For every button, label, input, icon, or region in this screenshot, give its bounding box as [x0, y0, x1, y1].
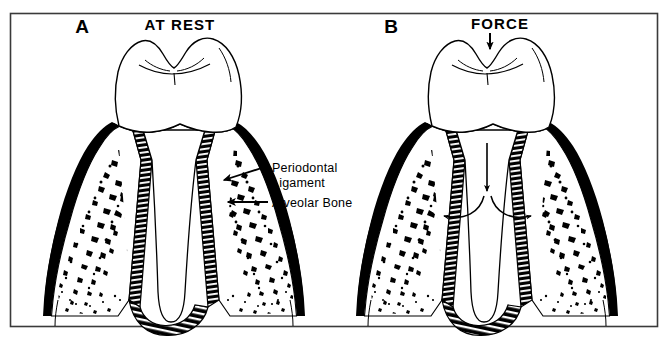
dental-diagram-svg: A AT REST B FORCE Periodontal Ligament A…: [0, 0, 668, 339]
label-periodontal-ligament-line1: Periodontal: [272, 161, 337, 175]
panel-b-title: FORCE: [471, 15, 529, 32]
figure-root: A AT REST B FORCE Periodontal Ligament A…: [0, 0, 668, 339]
panel-b-letter: B: [384, 16, 398, 37]
panel-a-letter: A: [75, 16, 89, 37]
label-alveolar-bone: Alveolar Bone: [272, 196, 352, 210]
panel-a-title: AT REST: [145, 16, 216, 33]
label-periodontal-ligament-line2: Ligament: [272, 176, 325, 190]
